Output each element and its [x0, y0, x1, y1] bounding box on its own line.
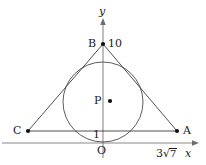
point-label-b: B: [88, 38, 96, 49]
y-intercept-label-1: 1: [93, 129, 100, 140]
geometry-figure: y B 10 P C A 1 O 3√7 x: [0, 0, 206, 165]
y-axis: [100, 18, 106, 158]
point-marker-a: [175, 129, 179, 133]
point-marker-p: [108, 99, 112, 103]
x-value-label-3root7: 3√7: [156, 148, 177, 160]
radical-group: √7: [163, 148, 177, 160]
origin-label: O: [97, 145, 106, 156]
segment-length-label-10: 10: [108, 38, 122, 49]
y-axis-label: y: [99, 6, 105, 17]
point-label-p: P: [94, 95, 101, 106]
point-marker-b: [101, 42, 105, 46]
radicand-value: 7: [169, 148, 177, 160]
figure-canvas: [0, 0, 206, 165]
point-marker-c: [26, 129, 30, 133]
x-axis-label: x: [185, 148, 191, 159]
point-label-a: A: [183, 125, 191, 136]
point-label-c: C: [13, 125, 21, 136]
x-value-coefficient: 3: [156, 147, 163, 160]
